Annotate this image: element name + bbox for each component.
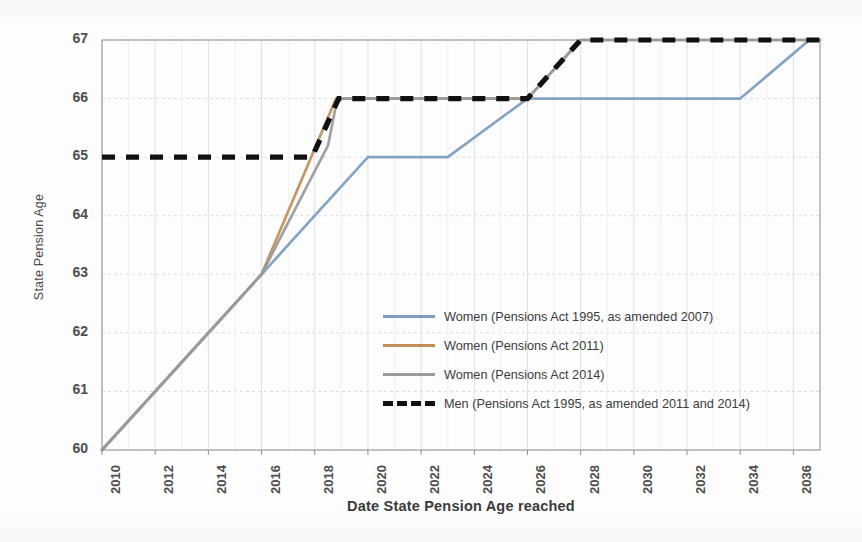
y-axis-tick-label: 65 (42, 147, 88, 163)
x-axis-title: Date State Pension Age reached (102, 498, 820, 514)
legend-label: Women (Pensions Act 1995, as amended 200… (444, 310, 713, 324)
x-axis-tick-label: 2034 (746, 465, 761, 494)
legend-item[interactable]: Women (Pensions Act 2011) (383, 331, 833, 360)
x-axis-tick-label: 2018 (321, 465, 336, 494)
legend-label: Women (Pensions Act 2011) (444, 339, 604, 353)
state-pension-age-chart (0, 0, 862, 542)
y-axis-tick-label: 63 (42, 264, 88, 280)
legend-item[interactable]: Women (Pensions Act 1995, as amended 200… (383, 302, 833, 331)
legend-swatch-3 (383, 368, 435, 382)
x-axis-tick-label: 2024 (480, 465, 495, 494)
x-axis-tick-label: 2020 (374, 465, 389, 494)
y-axis-tick-label: 60 (42, 440, 88, 456)
x-axis-tick-label: 2010 (108, 465, 123, 494)
x-axis-tick-label: 2030 (640, 465, 655, 494)
legend-swatch-4 (383, 397, 435, 411)
x-axis-tick-label: 2032 (693, 465, 708, 494)
legend-swatch-1 (383, 310, 435, 324)
legend-label: Women (Pensions Act 2014) (444, 368, 605, 382)
x-axis-tick-label: 2036 (799, 465, 814, 494)
y-axis-tick-label: 64 (42, 206, 88, 222)
legend-label: Men (Pensions Act 1995, as amended 2011 … (444, 397, 750, 411)
x-axis-tick-label: 2014 (214, 465, 229, 494)
legend-item[interactable]: Men (Pensions Act 1995, as amended 2011 … (383, 389, 833, 418)
y-axis-title: State Pension Age (32, 147, 46, 347)
y-axis-tick-label: 67 (42, 30, 88, 46)
x-axis-tick-label: 2016 (268, 465, 283, 494)
y-axis-tick-label: 66 (42, 89, 88, 105)
legend-swatch-2 (383, 339, 435, 353)
chart-legend: Women (Pensions Act 1995, as amended 200… (383, 302, 833, 418)
y-axis-tick-label: 62 (42, 323, 88, 339)
legend-item[interactable]: Women (Pensions Act 2014) (383, 360, 833, 389)
x-axis-tick-label: 2012 (161, 465, 176, 494)
y-axis-tick-label: 61 (42, 381, 88, 397)
x-axis-tick-label: 2026 (533, 465, 548, 494)
x-axis-tick-label: 2022 (427, 465, 442, 494)
x-axis-tick-label: 2028 (587, 465, 602, 494)
